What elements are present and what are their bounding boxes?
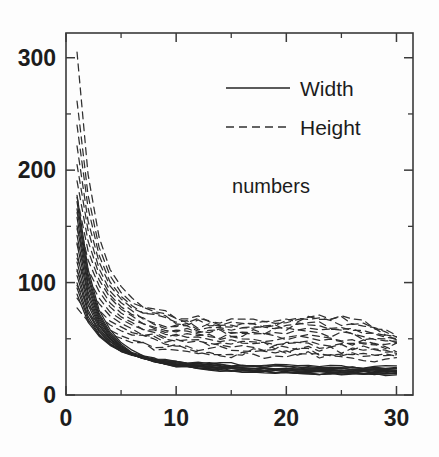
- curves-layer: [77, 52, 396, 376]
- curve-height: [77, 243, 396, 352]
- x-tick-label: 10: [163, 405, 189, 431]
- curve-height: [77, 181, 396, 341]
- curve-height: [77, 197, 396, 342]
- x-tick-label: 0: [60, 405, 73, 431]
- curve-height: [77, 308, 396, 362]
- numbers-annotation: numbers: [232, 175, 310, 197]
- legend: Width Height: [226, 77, 361, 139]
- x-tick-label: 30: [384, 405, 410, 431]
- curve-width: [77, 294, 396, 368]
- y-tick-label: 200: [18, 157, 56, 183]
- curve-height: [77, 271, 396, 353]
- line-chart: 01020300100200300 Width Height numbers: [0, 0, 439, 457]
- y-tick-label: 100: [18, 270, 56, 296]
- legend-label-height: Height: [300, 116, 361, 139]
- curve-height: [77, 125, 396, 337]
- y-tick-label: 300: [18, 45, 56, 71]
- y-tick-label: 0: [43, 382, 56, 408]
- figure-container: 01020300100200300 Width Height numbers: [0, 0, 439, 457]
- curve-height: [77, 229, 396, 349]
- legend-label-width: Width: [300, 77, 354, 100]
- x-tick-label: 20: [274, 405, 300, 431]
